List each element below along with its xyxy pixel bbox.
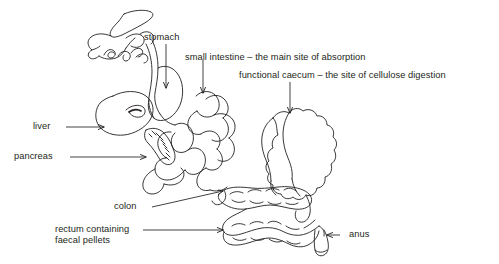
leader-colon	[152, 191, 223, 207]
label-rectum-line2: faecal pellets	[55, 235, 110, 247]
oesophagus	[152, 40, 160, 114]
label-small-intestine: small intestine – the main site of absor…	[185, 52, 366, 64]
label-stomach: stomach	[144, 32, 180, 44]
label-colon: colon	[114, 201, 136, 213]
liver-outline	[96, 92, 153, 136]
colon-outline	[212, 187, 312, 210]
diagram-canvas: stomach small intestine – the main site …	[0, 0, 499, 264]
stomach-outline	[148, 66, 182, 125]
label-pancreas: pancreas	[14, 151, 53, 163]
label-caecum: functional caecum – the site of cellulos…	[239, 70, 446, 82]
label-rectum-line1: rectum containing	[55, 224, 129, 236]
label-liver: liver	[33, 121, 50, 133]
anus-outline	[314, 230, 328, 256]
pancreas-outline	[145, 128, 175, 164]
label-anus: anus	[349, 229, 369, 241]
rectum-outline	[223, 209, 325, 247]
